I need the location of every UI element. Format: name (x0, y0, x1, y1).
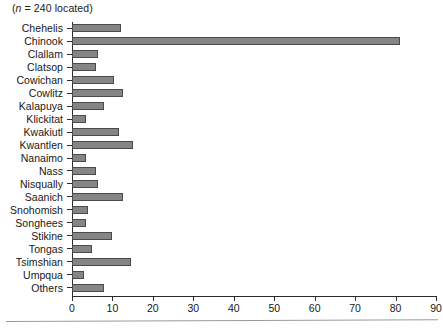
bar (72, 128, 119, 136)
value-axis-ticks: 0102030405060708090 (72, 296, 436, 316)
value-tick (355, 296, 356, 301)
value-tick (153, 296, 154, 301)
value-tick-label: 30 (187, 302, 199, 314)
bar-row: Snohomish (72, 203, 436, 216)
value-tick-label: 20 (147, 302, 159, 314)
bar (72, 154, 86, 162)
bar (72, 271, 84, 279)
value-tick-label: 0 (69, 302, 75, 314)
value-tick-label: 80 (390, 302, 402, 314)
footer-rule (6, 319, 438, 322)
category-label: Kwakiutl (24, 126, 64, 138)
bar-row: Chehelis (72, 22, 436, 35)
note-rest: = 240 located) (22, 2, 93, 14)
bar-row: Cowlitz (72, 87, 436, 100)
category-label: Clallam (28, 48, 63, 60)
category-label: Kalapuya (19, 100, 63, 112)
bar-row: Umpqua (72, 268, 436, 281)
bar (72, 24, 121, 32)
category-label: Nisqually (20, 178, 63, 190)
category-label: Chehelis (22, 22, 63, 34)
bar-row: Kwakiutl (72, 126, 436, 139)
value-tick-label: 70 (349, 302, 361, 314)
sample-size-note: (n = 240 located) (12, 2, 93, 14)
value-tick (436, 296, 437, 301)
bar-row: Kalapuya (72, 100, 436, 113)
category-label: Klickitat (26, 113, 63, 125)
category-label: Cowichan (16, 74, 63, 86)
category-label: Saanich (25, 191, 63, 203)
category-label: Cowlitz (29, 87, 63, 99)
category-label: Chinook (24, 35, 63, 47)
bar (72, 245, 92, 253)
bar (72, 284, 104, 292)
value-tick-label: 10 (107, 302, 119, 314)
category-label: Tongas (29, 243, 63, 255)
bar-row: Saanich (72, 190, 436, 203)
category-label: Umpqua (23, 269, 63, 281)
bar-row: Cowichan (72, 74, 436, 87)
value-tick-label: 40 (228, 302, 240, 314)
bar-rows: ChehelisChinookClallamClatsopCowichanCow… (72, 22, 436, 294)
bar-row: Songhees (72, 216, 436, 229)
bar (72, 232, 112, 240)
bar-row: Tsimshian (72, 255, 436, 268)
value-tick (315, 296, 316, 301)
category-label: Tsimshian (16, 256, 63, 268)
bar (72, 193, 123, 201)
bar (72, 115, 86, 123)
value-tick (112, 296, 113, 301)
bar-row: Nanaimo (72, 152, 436, 165)
bar (72, 180, 98, 188)
bar-row: Clallam (72, 48, 436, 61)
bar (72, 219, 86, 227)
category-label: Others (31, 282, 63, 294)
category-label: Kwantlen (19, 139, 63, 151)
bar (72, 167, 96, 175)
category-label: Stikine (31, 230, 63, 242)
category-label: Nass (39, 165, 63, 177)
category-label: Nanaimo (21, 152, 63, 164)
value-tick (72, 296, 73, 301)
value-tick (193, 296, 194, 301)
bar (72, 89, 123, 97)
value-tick-label: 60 (309, 302, 321, 314)
bar-row: Nisqually (72, 177, 436, 190)
bar-row: Others (72, 281, 436, 294)
bar (72, 63, 96, 71)
bar (72, 76, 114, 84)
bar (72, 258, 131, 266)
category-label: Snohomish (10, 204, 63, 216)
value-tick (234, 296, 235, 301)
value-tick-label: 90 (430, 302, 442, 314)
bar (72, 37, 400, 45)
bar-row: Nass (72, 164, 436, 177)
bar (72, 102, 104, 110)
plot-area: ChehelisChinookClallamClatsopCowichanCow… (72, 22, 436, 294)
bar-row: Kwantlen (72, 139, 436, 152)
bar (72, 206, 88, 214)
bar-row: Stikine (72, 229, 436, 242)
value-tick (274, 296, 275, 301)
bar-row: Klickitat (72, 113, 436, 126)
bar (72, 141, 133, 149)
category-label: Songhees (15, 217, 63, 229)
category-label: Clatsop (27, 61, 63, 73)
bar-row: Clatsop (72, 61, 436, 74)
figure: (n = 240 located) ChehelisChinookClallam… (0, 0, 443, 334)
value-tick-label: 50 (268, 302, 280, 314)
bar (72, 50, 98, 58)
bar-row: Chinook (72, 35, 436, 48)
bar-row: Tongas (72, 242, 436, 255)
value-tick (396, 296, 397, 301)
